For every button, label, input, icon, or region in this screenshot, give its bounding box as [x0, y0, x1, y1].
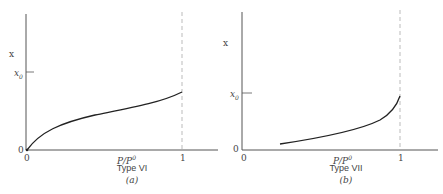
panel-a-origin-dot	[26, 149, 29, 152]
panel-b-x-origin: 0	[241, 153, 247, 163]
panel-a-x0-label: x0	[14, 68, 23, 82]
panel-b-type-label: Type VII	[306, 163, 386, 173]
panel-b-x-tick-one: 1	[398, 153, 404, 163]
panel-a-y-label: x	[9, 49, 14, 59]
panel-a-axes	[26, 12, 218, 150]
panel-b-y-origin: 0	[233, 144, 239, 154]
panel-b-y-label: x	[223, 38, 228, 48]
panel-b-x0-label: x0	[230, 89, 239, 103]
panel-a-curve	[27, 92, 182, 150]
panel-a-type-label: Type VI	[92, 163, 172, 173]
panel-a-x-tick-one: 1	[180, 153, 186, 163]
panel-a-panel-label: (a)	[112, 175, 152, 185]
panel-b-axes	[242, 10, 438, 150]
panel-a-y-origin: 0	[18, 145, 24, 155]
panel-b-panel-label: (b)	[326, 175, 366, 185]
panel-a-x-origin: 0	[24, 153, 30, 163]
panel-b-curve	[280, 96, 400, 144]
